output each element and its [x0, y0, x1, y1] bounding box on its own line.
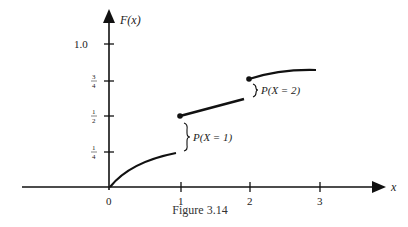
- annotation-p-x-2: P(X = 2): [260, 84, 301, 97]
- y-tick-3-4-den: 4: [92, 82, 96, 90]
- jump-point-2: [246, 76, 252, 82]
- brace-p2: [253, 84, 258, 97]
- y-axis-label: F(x): [119, 13, 141, 27]
- x-axis-label: x: [390, 180, 397, 194]
- x-axis-arrow-icon: [372, 181, 386, 193]
- cdf-segment-3: [249, 70, 316, 79]
- y-tick-1-4-den: 4: [92, 153, 96, 161]
- y-tick-1-2-den: 2: [92, 117, 96, 125]
- brace-p1: [184, 123, 190, 151]
- y-tick-1: 1.0: [74, 38, 88, 50]
- cdf-segment-1: [110, 153, 176, 187]
- y-tick-3-4-num: 3: [92, 73, 96, 81]
- cdf-segment-2: [180, 99, 244, 116]
- y-tick-1-4-num: 1: [92, 144, 96, 152]
- y-axis-arrow-icon: [103, 9, 115, 23]
- annotation-p-x-1: P(X = 1): [192, 131, 233, 144]
- cdf-chart: F(x) 1.0 3 4 1 2 1 4 0 1 2 3 x P(X = 1) …: [0, 0, 408, 227]
- figure-caption: Figure 3.14: [0, 203, 408, 218]
- jump-point-1: [177, 113, 183, 119]
- y-tick-1-2-num: 1: [92, 108, 96, 116]
